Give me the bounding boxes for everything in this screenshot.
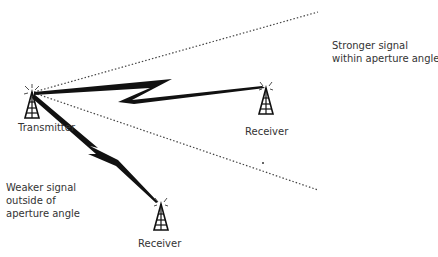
receiver-far-label: Receiver	[138, 238, 181, 250]
stronger-signal-note-line2: within aperture angle	[332, 53, 438, 65]
aperture-angle-diagram: Transmitter Receiver Receiver Stronger s…	[0, 0, 438, 257]
receiver-near-label: Receiver	[245, 126, 288, 138]
aperture-lower-line	[34, 93, 318, 190]
aperture-upper-line	[34, 12, 318, 92]
weaker-signal-note-line1: Weaker signal	[6, 182, 76, 194]
stronger-signal-note-line1: Stronger signal	[332, 40, 408, 52]
stray-dot	[262, 162, 264, 164]
transmitter-label: Transmitter	[18, 122, 75, 134]
weaker-signal-note-line3: aperture angle	[6, 208, 80, 220]
weaker-signal-note-line2: outside of	[6, 195, 56, 207]
